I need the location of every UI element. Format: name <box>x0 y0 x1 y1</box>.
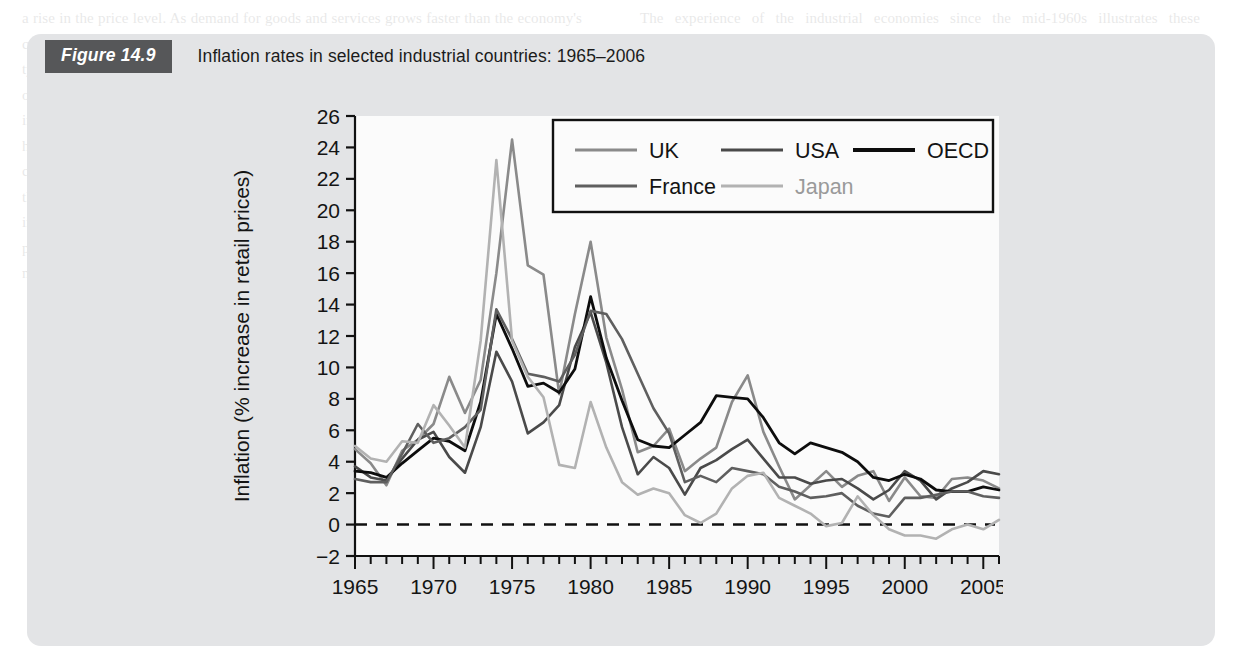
figure-panel: Figure 14.9 Inflation rates in selected … <box>27 34 1215 646</box>
y-tick-label: 16 <box>317 262 340 285</box>
x-tick-label: 2005 <box>960 575 1003 598</box>
x-tick-label: 1980 <box>567 575 614 598</box>
y-tick-label: 20 <box>317 199 340 222</box>
x-tick-label: 1990 <box>724 575 771 598</box>
y-tick-label: 8 <box>328 387 340 410</box>
x-tick-label: 1965 <box>332 575 379 598</box>
x-tick-label: 1970 <box>410 575 457 598</box>
y-tick-label: 26 <box>317 105 340 128</box>
chart-plot-area: −202468101214161820222426196519701975198… <box>223 104 1003 624</box>
legend-box <box>553 120 993 212</box>
figure-title: Inflation rates in selected industrial c… <box>198 46 646 67</box>
y-tick-label: 22 <box>317 167 340 190</box>
y-tick-label: 4 <box>328 450 340 473</box>
y-tick-label: 10 <box>317 356 340 379</box>
y-tick-label: 18 <box>317 230 340 253</box>
y-axis-title: Inflation (% increase in retail prices) <box>230 170 253 503</box>
y-tick-label: 0 <box>328 513 340 536</box>
y-tick-label: −2 <box>316 545 340 568</box>
legend-label-france: France <box>649 175 716 199</box>
legend-label-oecd: OECD <box>927 139 989 163</box>
x-tick-label: 1975 <box>489 575 536 598</box>
figure-number-badge: Figure 14.9 <box>45 40 172 73</box>
legend-label-usa: USA <box>795 139 840 163</box>
figure-header: Figure 14.9 Inflation rates in selected … <box>45 39 645 74</box>
legend-label-japan: Japan <box>795 175 854 199</box>
x-tick-label: 1995 <box>803 575 850 598</box>
figure-page: a rise in the price level. As demand for… <box>0 0 1247 669</box>
y-tick-label: 6 <box>328 419 340 442</box>
x-tick-label: 1985 <box>646 575 693 598</box>
x-tick-label: 2000 <box>881 575 928 598</box>
y-tick-label: 24 <box>317 136 341 159</box>
y-tick-label: 14 <box>317 293 341 316</box>
y-tick-label: 12 <box>317 325 340 348</box>
y-tick-label: 2 <box>328 482 340 505</box>
legend-label-uk: UK <box>649 139 680 163</box>
inflation-line-chart: −202468101214161820222426196519701975198… <box>223 104 1003 624</box>
